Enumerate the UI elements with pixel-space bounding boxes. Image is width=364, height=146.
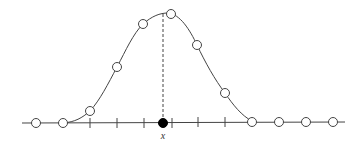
curve-sample-points [86, 10, 230, 116]
sample-point [302, 118, 311, 127]
sample-point [193, 41, 202, 50]
sample-point [139, 20, 148, 29]
sample-point [59, 119, 68, 128]
sample-point [221, 89, 230, 98]
sample-point [248, 118, 257, 127]
sample-point [86, 107, 95, 116]
sample-point [113, 63, 122, 72]
diagram-canvas: x [0, 0, 364, 146]
sample-point [275, 118, 284, 127]
marked-point-label: x [160, 130, 166, 141]
marked-point [159, 119, 168, 128]
sample-point [167, 10, 176, 19]
sample-point [32, 119, 41, 128]
sample-point [329, 118, 338, 127]
